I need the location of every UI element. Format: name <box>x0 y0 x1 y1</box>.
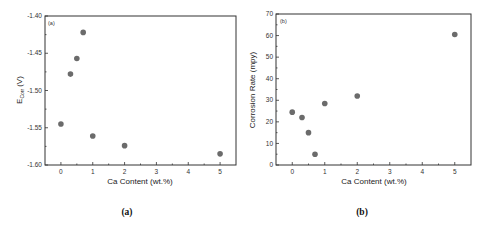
y-tick-label: 10 <box>266 140 274 147</box>
y-axis-label-b: Corrosion Rate (mpy) <box>248 51 257 128</box>
svg-text:ECorr(V): ECorr(V) <box>15 76 25 104</box>
y-tick-label: -1.40 <box>27 12 42 19</box>
data-point <box>299 115 305 121</box>
x-tick-label: 1 <box>91 168 95 175</box>
y-tick-label: 30 <box>266 96 274 103</box>
y-tick-label: 50 <box>266 53 274 60</box>
x-tick-label: 3 <box>388 168 392 175</box>
y-tick-label: -1.60 <box>27 161 42 168</box>
caption-b: (b) <box>356 207 368 218</box>
x-axis-a: 012345 <box>59 162 222 175</box>
chart-panel-b: 012345 010203040506070 (b) Ca Content (w… <box>248 10 471 218</box>
y-axis-b: 010203040506070 <box>266 10 279 168</box>
data-point <box>452 32 458 38</box>
chart-panel-a: 012345 -1.40-1.45-1.50-1.55-1.60 (a) Ca … <box>15 12 236 218</box>
x-tick-label: 5 <box>218 168 222 175</box>
data-point <box>306 130 312 136</box>
y-tick-label: 60 <box>266 32 274 39</box>
x-axis-b: 012345 <box>290 162 457 175</box>
data-point <box>68 71 74 77</box>
x-axis-label-b: Ca Content (wt.%) <box>341 177 407 186</box>
y-tick-label: -1.55 <box>27 124 42 131</box>
y-label-unit-a: (V) <box>15 76 24 87</box>
y-axis-label-a: ECorr(V) <box>15 76 25 104</box>
data-point <box>312 151 318 157</box>
y-tick-label: -1.50 <box>27 87 42 94</box>
plot-frame-a <box>45 16 236 165</box>
y-tick-label: 20 <box>266 118 274 125</box>
data-point <box>322 101 328 107</box>
panel-label-a: (a) <box>48 20 55 26</box>
x-tick-label: 4 <box>420 168 424 175</box>
x-tick-label: 5 <box>453 168 457 175</box>
data-point <box>217 151 223 157</box>
data-point <box>354 93 360 99</box>
plot-frame-b <box>276 14 471 165</box>
data-point <box>122 143 128 149</box>
data-point <box>74 56 80 62</box>
y-tick-label: 40 <box>266 75 274 82</box>
data-point <box>289 109 295 115</box>
x-axis-label-a: Ca Content (wt.%) <box>107 177 173 186</box>
x-tick-label: 4 <box>186 168 190 175</box>
y-tick-label: 0 <box>269 161 273 168</box>
y-tick-label: -1.45 <box>27 49 42 56</box>
data-points-a <box>58 30 223 157</box>
x-tick-label: 1 <box>323 168 327 175</box>
figure: 012345 -1.40-1.45-1.50-1.55-1.60 (a) Ca … <box>0 0 484 226</box>
x-tick-label: 2 <box>355 168 359 175</box>
data-points-b <box>289 32 457 157</box>
data-point <box>58 121 64 127</box>
y-tick-label: 70 <box>266 10 274 17</box>
x-tick-label: 2 <box>123 168 127 175</box>
x-tick-label: 0 <box>290 168 294 175</box>
panel-label-b: (b) <box>280 18 287 24</box>
x-tick-label: 0 <box>59 168 63 175</box>
y-label-sub-a: Corr <box>19 88 25 98</box>
x-tick-label: 3 <box>155 168 159 175</box>
data-point <box>80 30 86 36</box>
data-point <box>90 133 96 139</box>
caption-a: (a) <box>121 207 132 218</box>
